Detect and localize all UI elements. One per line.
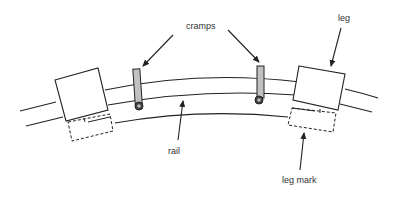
cramp-right: [255, 66, 264, 104]
rail-second-right-segment: [340, 104, 372, 112]
diagram-canvas: cramps leg rail leg mark: [0, 0, 396, 199]
cramp-left: [133, 69, 143, 110]
leg-left: [55, 68, 108, 121]
label-leg-mark: leg mark: [282, 176, 317, 185]
label-leg: leg: [338, 14, 350, 23]
rail-top-left-segment: [20, 102, 56, 111]
leg-mark-right: [288, 108, 336, 132]
arrow-leg: [331, 28, 341, 66]
leg-right: [293, 66, 345, 110]
label-rail: rail: [168, 147, 180, 156]
arrow-cramps-right: [228, 30, 259, 62]
arrow-cramps-left: [143, 35, 173, 66]
rail-second-left-segment: [26, 117, 63, 126]
arrow-leg-mark: [300, 133, 304, 170]
arrow-rail: [178, 101, 183, 140]
label-cramps: cramps: [186, 22, 216, 31]
rail-lower-segment: [115, 114, 288, 123]
rail-top-right-segment: [345, 89, 378, 98]
